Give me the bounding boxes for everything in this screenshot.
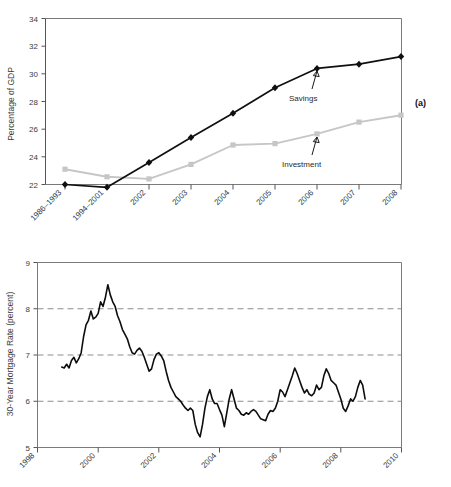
svg-text:2004: 2004 xyxy=(212,188,231,207)
svg-text:28: 28 xyxy=(29,98,38,107)
series-mortgage-rate xyxy=(62,285,365,437)
annotation-savings: Savings xyxy=(289,71,319,103)
x-tick-labels-a: 1986–1993 1994–2001 2002 2003 2004 2005 … xyxy=(29,188,400,223)
panel-label-a: (a) xyxy=(415,98,426,108)
investment-markers xyxy=(62,113,403,182)
y-axis-title-b: 30-Year Mortgage Rate (percent) xyxy=(5,292,15,417)
svg-text:26: 26 xyxy=(29,125,38,134)
svg-text:34: 34 xyxy=(29,15,38,24)
svg-text:30: 30 xyxy=(29,70,38,79)
svg-text:2003: 2003 xyxy=(170,188,189,207)
svg-text:32: 32 xyxy=(29,42,38,51)
svg-text:24: 24 xyxy=(29,153,38,162)
svg-text:2010: 2010 xyxy=(381,451,400,470)
svg-text:2006: 2006 xyxy=(296,188,315,207)
annotation-investment: Investment xyxy=(282,137,322,169)
svg-text:1998: 1998 xyxy=(17,451,36,470)
annotation-savings-label: Savings xyxy=(289,94,317,103)
x-tick-labels-b: 1998 2000 2002 2004 2006 2008 2010 xyxy=(17,451,400,470)
svg-text:22: 22 xyxy=(29,181,38,190)
svg-text:2007: 2007 xyxy=(338,188,357,207)
plot-frame-a xyxy=(46,19,402,185)
svg-text:2002: 2002 xyxy=(139,451,158,470)
series-savings xyxy=(62,53,404,191)
svg-text:9: 9 xyxy=(26,259,31,268)
svg-text:1986–1993: 1986–1993 xyxy=(29,188,64,223)
figure-container: Percentage of GDP 22 24 26 28 30 3 xyxy=(0,0,451,487)
savings-markers xyxy=(62,53,404,191)
svg-text:8: 8 xyxy=(26,305,31,314)
annotation-investment-label: Investment xyxy=(282,160,322,169)
svg-text:2006: 2006 xyxy=(260,451,279,470)
savings-investment-line-chart: Percentage of GDP 22 24 26 28 30 3 xyxy=(0,0,451,244)
mortgage-rate-line-chart: 30-Year Mortgage Rate (percent) 5 6 xyxy=(0,244,451,487)
gridlines-b xyxy=(38,309,402,402)
y-ticks-b: 5 6 7 8 9 xyxy=(26,259,38,453)
series-investment xyxy=(62,113,403,182)
svg-text:2008: 2008 xyxy=(321,451,340,470)
svg-text:7: 7 xyxy=(26,351,31,360)
svg-text:2004: 2004 xyxy=(199,451,218,470)
chart-panel-a: Percentage of GDP 22 24 26 28 30 3 xyxy=(0,0,451,244)
y-ticks-a: 22 24 26 28 30 32 34 xyxy=(29,15,45,190)
svg-text:2005: 2005 xyxy=(254,188,273,207)
x-ticks-b xyxy=(38,448,402,453)
svg-text:1994–2001: 1994–2001 xyxy=(71,188,106,223)
svg-text:6: 6 xyxy=(26,397,31,406)
y-axis-title-a: Percentage of GDP xyxy=(6,67,16,141)
chart-panel-b: 30-Year Mortgage Rate (percent) 5 6 xyxy=(0,244,451,487)
svg-text:2008: 2008 xyxy=(380,188,399,207)
svg-text:2000: 2000 xyxy=(78,451,97,470)
svg-text:2002: 2002 xyxy=(128,188,147,207)
